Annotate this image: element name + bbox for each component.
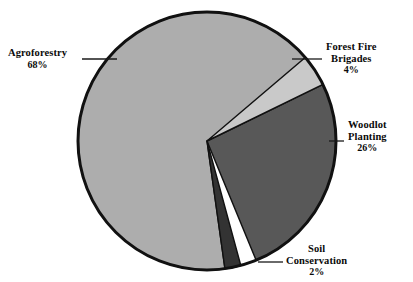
pie-label-woodlot-planting-line2: Planting	[348, 131, 387, 142]
pie-label-woodlot-planting: Woodlot Planting 26%	[348, 119, 387, 154]
pie-label-woodlot-planting-percent: 26%	[348, 142, 387, 154]
pie-label-agroforestry-name: Agroforestry	[8, 47, 67, 58]
pie-label-agroforestry: Agroforestry 68%	[8, 47, 67, 70]
pie-label-forest-fire-brigades: Forest Fire Brigades 4%	[326, 41, 377, 76]
pie-label-soil-conservation-percent: 2%	[286, 266, 347, 278]
pie-label-woodlot-planting-line1: Woodlot	[348, 119, 387, 130]
pie-label-forest-fire-brigades-percent: 4%	[326, 64, 377, 76]
pie-label-soil-conservation: Soil Conservation 2%	[286, 243, 347, 278]
pie-label-agroforestry-percent: 68%	[8, 59, 67, 71]
pie-chart-figure: Agroforestry 68% Forest Fire Brigades 4%…	[0, 0, 413, 282]
pie-label-forest-fire-brigades-line2: Brigades	[331, 53, 371, 64]
pie-label-soil-conservation-line1: Soil	[308, 243, 325, 254]
pie-label-forest-fire-brigades-line1: Forest Fire	[326, 41, 377, 52]
pie-label-soil-conservation-line2: Conservation	[286, 255, 347, 266]
